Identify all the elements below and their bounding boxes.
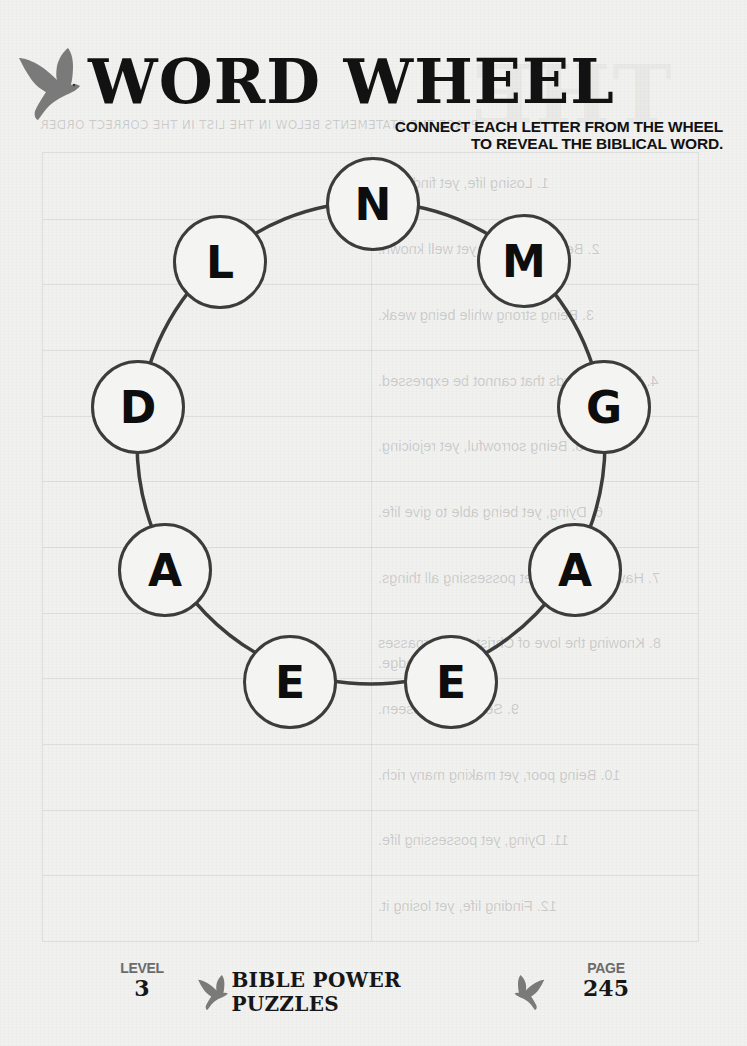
letter-node-g[interactable]: G: [557, 360, 651, 454]
dove-icon: [513, 973, 546, 1011]
brand-name: BIBLE POWER PUZZLES: [231, 968, 510, 1016]
level-value: 3: [112, 976, 172, 1000]
letter-node-d[interactable]: D: [91, 360, 185, 454]
letter-node-a-right[interactable]: A: [528, 523, 622, 617]
footer-brand: BIBLE POWER PUZZLES: [196, 972, 546, 1012]
page-number: 245: [576, 976, 636, 1000]
letter-node-l[interactable]: L: [173, 215, 267, 309]
level-label: LEVEL: [112, 960, 172, 976]
page-label: PAGE: [576, 960, 636, 976]
letter-node-n[interactable]: N: [326, 157, 420, 251]
footer-level: LEVEL 3: [112, 960, 172, 1000]
letter-node-e-left[interactable]: E: [243, 635, 337, 729]
letter-node-m[interactable]: M: [477, 214, 571, 308]
footer-page: PAGE 245: [576, 960, 636, 1000]
letter-node-e-right[interactable]: E: [404, 635, 498, 729]
word-wheel: N M G A E E A D L: [0, 0, 747, 1046]
dove-icon: [196, 973, 229, 1011]
letter-node-a-left[interactable]: A: [118, 523, 212, 617]
